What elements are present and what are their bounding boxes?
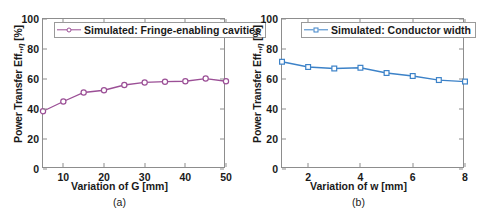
y-tick-label-b: 80	[266, 43, 278, 55]
y-tick-label-a: 20	[27, 133, 39, 145]
y-tick-mark-a	[43, 19, 47, 20]
y-tick-label-a: 60	[27, 73, 39, 85]
x-tick-mark-a	[185, 163, 186, 167]
y-tick-mark-right-a	[220, 79, 224, 80]
y-axis-label-a-text: Power Transfer Eff.,	[12, 48, 24, 143]
legend-b-swatch	[304, 25, 328, 36]
y-tick-label-b: 40	[266, 103, 278, 115]
y-axis-label-b-text: Power Transfer Eff.,	[251, 48, 263, 143]
y-tick-mark-b	[282, 49, 286, 50]
series-a-fringe-enabling-cavities	[43, 19, 226, 169]
data-point-marker-b	[436, 78, 441, 83]
legend-a: Simulated: Fringe-enabling cavities	[54, 22, 266, 38]
y-tick-label-b: 60	[266, 73, 278, 85]
plot-box-b: 0204060801002468	[281, 18, 464, 168]
y-tick-mark-a	[43, 109, 47, 110]
plot-box-a: 0204060801001020304050	[42, 18, 225, 168]
x-axis-label-b: Variation of w [mm]	[239, 180, 478, 192]
plot-area-b: 0204060801002468	[282, 19, 463, 167]
x-axis-label-a: Variation of G [mm]	[0, 180, 239, 192]
y-tick-label-a: 80	[27, 43, 39, 55]
y-tick-mark-right-b	[459, 109, 463, 110]
y-tick-mark-b	[282, 19, 286, 20]
legend-b-label: Simulated: Conductor width	[331, 24, 471, 36]
data-point-marker-a	[142, 80, 147, 85]
y-tick-mark-b	[282, 79, 286, 80]
data-point-marker-b	[358, 65, 363, 70]
y-axis-label-a: Power Transfer Eff.,η [%]	[12, 4, 26, 164]
data-point-marker-a	[122, 82, 127, 87]
y-tick-mark-a	[43, 169, 47, 170]
y-tick-mark-right-b	[459, 19, 463, 20]
data-point-marker-b	[332, 66, 337, 71]
chart-panel-b: Power Transfer Eff.,η [%] 02040608010024…	[239, 0, 478, 214]
figure-two-panel-line-charts: Power Transfer Eff.,η [%] 02040608010010…	[0, 0, 478, 214]
y-tick-mark-a	[43, 79, 47, 80]
y-tick-label-a: 100	[21, 13, 39, 25]
x-tick-mark-a	[104, 163, 105, 167]
x-tick-mark-b	[308, 163, 309, 167]
legend-b: Simulated: Conductor width	[301, 22, 476, 38]
y-tick-mark-right-a	[220, 109, 224, 110]
legend-a-label: Simulated: Fringe-enabling cavities	[84, 24, 261, 36]
y-axis-label-a-unit: [%]	[12, 25, 24, 43]
data-point-marker-a	[81, 90, 86, 95]
y-tick-mark-right-b	[459, 49, 463, 50]
y-tick-mark-b	[282, 109, 286, 110]
x-tick-mark-a	[63, 163, 64, 167]
y-tick-label-a: 40	[27, 103, 39, 115]
x-tick-mark-a	[144, 163, 145, 167]
y-tick-mark-b	[282, 169, 286, 170]
x-tick-mark-a	[226, 163, 227, 167]
y-tick-mark-b	[282, 139, 286, 140]
y-tick-label-b: 0	[272, 163, 278, 175]
y-tick-label-a: 0	[33, 163, 39, 175]
panel-caption-a: (a)	[0, 196, 239, 208]
plot-area-a: 0204060801001020304050	[43, 19, 224, 167]
data-point-marker-a	[203, 76, 208, 81]
y-tick-mark-a	[43, 139, 47, 140]
series-line-a	[43, 79, 226, 112]
panel-caption-b: (b)	[239, 196, 478, 208]
legend-a-swatch	[57, 25, 81, 36]
y-axis-label-a-eta: η	[16, 44, 25, 49]
data-point-marker-a	[162, 79, 167, 84]
y-tick-mark-right-a	[220, 169, 224, 170]
x-tick-mark-b	[465, 163, 466, 167]
y-tick-mark-right-a	[220, 49, 224, 50]
y-tick-mark-right-b	[459, 79, 463, 80]
data-point-marker-b	[280, 59, 285, 64]
data-point-marker-b	[384, 71, 389, 76]
legend-a-marker-circle-icon	[67, 28, 72, 33]
data-point-marker-b	[410, 74, 415, 79]
data-point-marker-b	[463, 79, 468, 84]
series-b-conductor-width	[282, 19, 465, 169]
y-tick-mark-right-b	[459, 169, 463, 170]
x-tick-mark-b	[412, 163, 413, 167]
data-point-marker-b	[306, 65, 311, 70]
y-tick-mark-right-a	[220, 139, 224, 140]
y-tick-label-b: 20	[266, 133, 278, 145]
y-tick-label-b: 100	[260, 13, 278, 25]
y-axis-label-b: Power Transfer Eff.,η [%]	[251, 4, 265, 164]
data-point-marker-a	[101, 88, 106, 93]
y-axis-label-b-eta: η	[255, 44, 264, 49]
legend-b-marker-square-icon	[314, 28, 319, 33]
y-tick-mark-right-a	[220, 19, 224, 20]
chart-panel-a: Power Transfer Eff.,η [%] 02040608010010…	[0, 0, 239, 214]
data-point-marker-a	[61, 99, 66, 104]
data-point-marker-a	[183, 79, 188, 84]
y-tick-mark-right-b	[459, 139, 463, 140]
data-point-marker-a	[223, 79, 228, 84]
y-axis-label-b-unit: [%]	[251, 25, 263, 43]
y-tick-mark-a	[43, 49, 47, 50]
x-tick-mark-b	[360, 163, 361, 167]
